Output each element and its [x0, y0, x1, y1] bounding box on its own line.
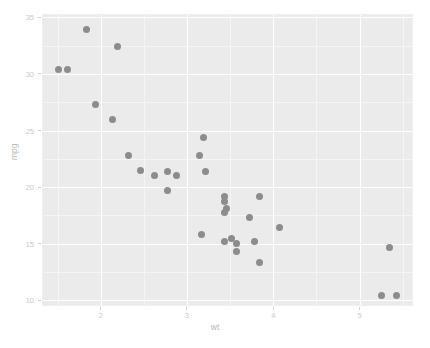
data-point	[114, 43, 121, 50]
gridline-major-horizontal	[42, 17, 413, 18]
chart-panel	[42, 14, 413, 306]
data-point	[64, 66, 71, 73]
data-point	[164, 168, 171, 175]
data-point	[198, 231, 205, 238]
data-point	[164, 187, 171, 194]
data-point	[202, 168, 209, 175]
gridline-minor-horizontal	[42, 159, 413, 160]
data-point	[109, 116, 116, 123]
y-tick-mark	[38, 130, 41, 131]
x-tick-mark	[359, 307, 360, 310]
gridline-minor-vertical	[58, 14, 59, 306]
data-point	[92, 101, 99, 108]
data-point	[393, 292, 400, 299]
gridline-minor-horizontal	[42, 215, 413, 216]
y-tick-label: 20	[18, 183, 34, 192]
data-point	[137, 167, 144, 174]
gridline-minor-vertical	[403, 14, 404, 306]
data-point	[151, 172, 158, 179]
gridline-minor-vertical	[144, 14, 145, 306]
y-axis-title: mpg	[9, 143, 19, 160]
gridline-major-horizontal	[42, 74, 413, 75]
y-tick-label: 10	[18, 296, 34, 305]
gridline-minor-vertical	[316, 14, 317, 306]
data-point	[55, 66, 62, 73]
y-tick-label: 30	[18, 69, 34, 78]
y-tick-mark	[38, 243, 41, 244]
data-point	[246, 214, 253, 221]
data-point	[233, 240, 240, 247]
data-point	[200, 134, 207, 141]
y-tick-label: 35	[18, 13, 34, 22]
scatter-plot-figure: 101520253035 2345 mpg wt	[0, 0, 430, 348]
data-point	[221, 238, 228, 245]
data-point	[251, 238, 258, 245]
data-point	[125, 152, 132, 159]
gridline-major-vertical	[360, 14, 361, 306]
x-axis-title: wt	[0, 322, 430, 332]
data-point	[221, 209, 228, 216]
data-point	[276, 224, 283, 231]
data-point	[233, 248, 240, 255]
y-tick-mark	[38, 300, 41, 301]
gridline-minor-horizontal	[42, 272, 413, 273]
gridline-major-horizontal	[42, 300, 413, 301]
data-point	[386, 244, 393, 251]
gridline-major-vertical	[273, 14, 274, 306]
gridline-minor-horizontal	[42, 46, 413, 47]
gridline-major-horizontal	[42, 131, 413, 132]
gridline-major-horizontal	[42, 187, 413, 188]
y-tick-label: 15	[18, 239, 34, 248]
data-point	[256, 193, 263, 200]
x-tick-label: 4	[271, 311, 275, 320]
gridline-major-vertical	[187, 14, 188, 306]
x-tick-label: 3	[185, 311, 189, 320]
data-point	[83, 26, 90, 33]
plot-area: 101520253035 2345 mpg wt	[0, 0, 430, 348]
y-tick-mark	[38, 17, 41, 18]
data-point	[378, 292, 385, 299]
y-tick-label: 25	[18, 126, 34, 135]
y-tick-mark	[38, 187, 41, 188]
x-tick-mark	[186, 307, 187, 310]
data-point	[173, 172, 180, 179]
y-tick-mark	[38, 73, 41, 74]
data-point	[256, 259, 263, 266]
x-tick-mark	[273, 307, 274, 310]
x-tick-label: 5	[357, 311, 361, 320]
x-tick-label: 2	[99, 311, 103, 320]
gridline-major-horizontal	[42, 244, 413, 245]
x-tick-mark	[100, 307, 101, 310]
gridline-major-vertical	[101, 14, 102, 306]
gridline-minor-vertical	[230, 14, 231, 306]
